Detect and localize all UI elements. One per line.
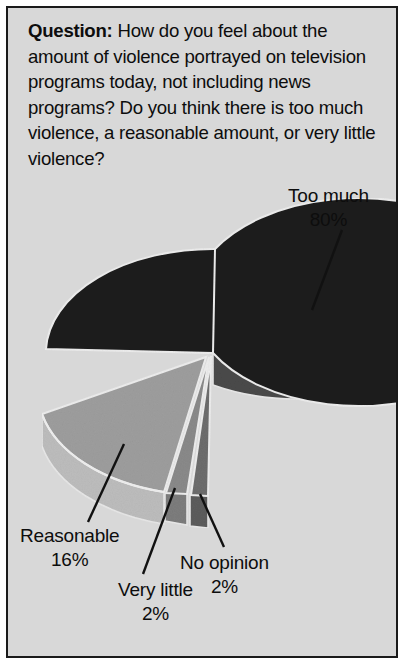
slice-side-no-opinion (190, 494, 208, 528)
callout-name-no-opinion: No opinion (180, 552, 269, 573)
callout-label-reasonable: Reasonable 16% (20, 524, 119, 571)
callout-pct-no-opinion: 2% (180, 575, 269, 599)
callout-name-reasonable: Reasonable (20, 525, 119, 546)
callout-pct-too-much: 80% (288, 208, 369, 232)
callout-pct-reasonable: 16% (20, 548, 119, 572)
callout-label-too-much: Too much 80% (288, 184, 369, 231)
poll-result-panel: Question: How do you feel about the amou… (6, 6, 398, 658)
callout-pct-very-little: 2% (118, 602, 193, 626)
callout-label-no-opinion: No opinion 2% (180, 551, 269, 598)
callout-name-too-much: Too much (288, 185, 369, 206)
